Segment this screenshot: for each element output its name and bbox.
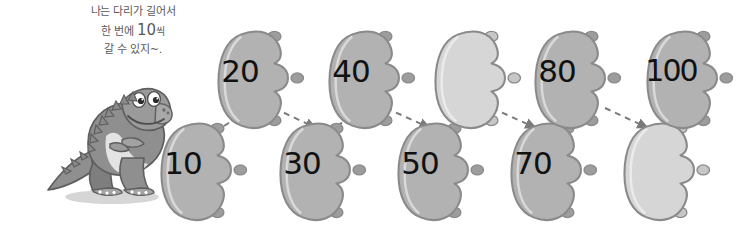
footprint-shape xyxy=(314,24,432,136)
footprint-20[interactable]: 20 xyxy=(203,24,321,136)
footprint-100[interactable]: 100 xyxy=(632,24,750,136)
footprint-pad xyxy=(647,32,716,129)
claw-middle-icon xyxy=(353,165,365,175)
footprint-pad xyxy=(535,32,604,129)
claw-middle-icon xyxy=(584,165,596,175)
claw-middle-icon xyxy=(471,165,483,175)
claw-middle-icon xyxy=(508,73,520,83)
claw-middle-icon xyxy=(234,165,246,175)
footprint-shape xyxy=(203,24,321,136)
footprint-pad xyxy=(161,124,230,221)
claw-middle-icon xyxy=(697,165,709,175)
footprint-pad xyxy=(329,32,398,129)
footprint-pad xyxy=(218,32,287,129)
claw-middle-icon xyxy=(608,73,620,83)
footprint-counting-diagram: 나는 다리가 길어서 한 번에 10씩 갈 수 있지~. xyxy=(0,0,752,225)
footprint-pad xyxy=(398,124,467,221)
footprint-pad xyxy=(511,124,580,221)
claw-middle-icon xyxy=(402,73,414,83)
footprint-80[interactable]: 80 xyxy=(520,24,638,136)
footprint-pad xyxy=(280,124,349,221)
footprint-40[interactable]: 40 xyxy=(314,24,432,136)
claw-middle-icon xyxy=(291,73,303,83)
footprint-shape xyxy=(632,24,750,136)
footprint-pad xyxy=(624,124,693,221)
footprint-pad xyxy=(435,32,504,129)
footprint-shape xyxy=(520,24,638,136)
claw-middle-icon xyxy=(720,73,732,83)
footprint-row-container: 10 30 50 70 20 xyxy=(0,0,752,225)
